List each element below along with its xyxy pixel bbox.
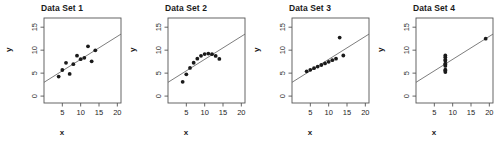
data-point [327, 60, 331, 64]
x-axis-title: x [124, 128, 248, 137]
x-axis-title: x [0, 128, 124, 137]
data-point [60, 68, 64, 72]
plot-frame [416, 18, 493, 103]
x-tick-label: 15 [467, 108, 475, 117]
data-point [192, 61, 196, 65]
data-point [188, 66, 192, 70]
chart-panel: Data Set 45101520051015xy [372, 0, 496, 141]
y-tick-label: 0 [155, 94, 164, 98]
regression-line [292, 34, 369, 82]
x-tick-label: 20 [113, 108, 121, 117]
y-axis-title: y [376, 48, 385, 52]
data-point [86, 44, 90, 48]
y-tick-label: 15 [155, 23, 164, 31]
data-point [330, 58, 334, 62]
data-point [210, 52, 214, 56]
y-tick-label: 0 [279, 94, 288, 98]
y-tick-label: 15 [31, 23, 40, 31]
y-axis-title: y [252, 48, 261, 52]
x-axis-title: x [248, 128, 372, 137]
data-point [312, 66, 316, 70]
data-point [68, 72, 72, 76]
x-axis-title: x [372, 128, 496, 137]
x-tick-label: 20 [485, 108, 493, 117]
x-tick-label: 20 [361, 108, 369, 117]
data-point [214, 54, 218, 58]
chart-panel: Data Set 25101520051015xy [124, 0, 248, 141]
chart-panel: Data Set 35101520051015xy [248, 0, 372, 141]
y-tick-label: 5 [31, 71, 40, 75]
data-point [217, 57, 221, 61]
x-tick-label: 5 [432, 108, 436, 117]
data-point [199, 54, 203, 58]
y-tick-label: 10 [279, 46, 288, 54]
chart-panel: Data Set 15101520051015xy [0, 0, 124, 141]
data-point [319, 63, 323, 67]
data-point [203, 52, 207, 56]
plot-frame [44, 18, 121, 103]
data-point [305, 69, 309, 73]
data-point [90, 59, 94, 63]
data-point [338, 36, 342, 40]
data-point [195, 57, 199, 61]
y-tick-label: 5 [403, 71, 412, 75]
plot-area: 5101520051015 [372, 0, 496, 141]
data-point [341, 54, 345, 58]
data-point [443, 69, 447, 73]
data-point [57, 75, 61, 79]
x-tick-label: 10 [76, 108, 84, 117]
plot-area: 5101520051015 [0, 0, 124, 141]
y-tick-label: 15 [279, 23, 288, 31]
y-tick-label: 15 [403, 23, 412, 31]
data-point [181, 80, 185, 84]
x-tick-label: 20 [237, 108, 245, 117]
x-tick-label: 10 [324, 108, 332, 117]
data-point [64, 61, 68, 65]
data-point [308, 68, 312, 72]
x-tick-label: 5 [184, 108, 188, 117]
x-tick-label: 15 [343, 108, 351, 117]
plot-area: 5101520051015 [248, 0, 372, 141]
data-point [206, 52, 210, 56]
anscombe-quartet-figure: Data Set 15101520051015xyData Set 251015… [0, 0, 498, 141]
data-point [443, 63, 447, 67]
y-tick-label: 10 [31, 46, 40, 54]
x-tick-label: 10 [448, 108, 456, 117]
plot-frame [168, 18, 245, 103]
y-tick-label: 0 [31, 94, 40, 98]
data-point [93, 48, 97, 52]
regression-line [416, 34, 493, 82]
data-point [71, 62, 75, 66]
x-tick-label: 15 [219, 108, 227, 117]
y-axis-title: y [128, 48, 137, 52]
data-point [79, 57, 83, 61]
data-point [484, 37, 488, 41]
data-point [316, 65, 320, 69]
regression-line [168, 34, 245, 82]
data-point [334, 57, 338, 61]
y-tick-label: 5 [279, 71, 288, 75]
y-tick-label: 0 [403, 94, 412, 98]
data-point [82, 56, 86, 60]
data-point [443, 58, 447, 62]
data-point [75, 54, 79, 58]
y-tick-label: 5 [155, 71, 164, 75]
plot-area: 5101520051015 [124, 0, 248, 141]
x-tick-label: 10 [200, 108, 208, 117]
x-tick-label: 15 [95, 108, 103, 117]
data-point [184, 72, 188, 76]
x-tick-label: 5 [308, 108, 312, 117]
y-tick-label: 10 [403, 46, 412, 54]
y-axis-title: y [4, 48, 13, 52]
y-tick-label: 10 [155, 46, 164, 54]
x-tick-label: 5 [60, 108, 64, 117]
data-point [323, 62, 327, 66]
